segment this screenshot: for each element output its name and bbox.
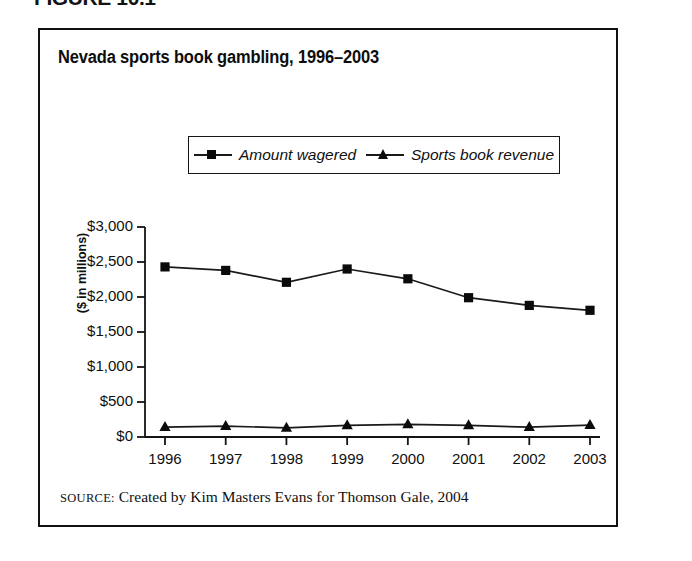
source-note: SOURCE: Created by Kim Masters Evans for… [60,488,468,506]
y-axis-tick-label: $0 [59,427,133,444]
x-axis-tick-label: 1999 [317,450,377,467]
x-axis-tick-label: 2000 [378,450,438,467]
y-axis-tick-label: $1,000 [59,357,133,374]
x-axis-tick-label: 2001 [439,450,499,467]
y-axis-tick-label: $500 [59,392,133,409]
figure-box: Nevada sports book gambling, 1996–2003 A… [38,28,618,527]
source-text: Created by Kim Masters Evans for Thomson… [115,488,469,505]
plot-area: ($ in millions) $0$500$1,000$1,500$2,000… [40,30,620,529]
figure-label: FIGURE 10.1 [34,0,156,10]
y-axis-tick-label: $1,500 [59,322,133,339]
x-axis-tick-label: 2002 [499,450,559,467]
y-axis-tick-label: $3,000 [59,217,133,234]
y-axis-tick-label: $2,500 [59,252,133,269]
source-keyword: SOURCE: [60,491,115,505]
x-axis-tick-label: 2003 [560,450,620,467]
y-axis-tick-label: $2,000 [59,287,133,304]
x-axis-tick-label: 1998 [256,450,316,467]
x-axis-tick-label: 1997 [196,450,256,467]
x-axis-tick-label: 1996 [135,450,195,467]
